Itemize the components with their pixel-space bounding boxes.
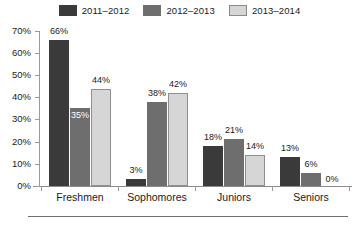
- y-tick-label-20: 20%: [12, 136, 31, 147]
- bar-wrap-freshmen-2011-2012: 66%: [49, 26, 69, 186]
- x-axis-label-freshmen: Freshmen: [47, 191, 113, 203]
- bar-sophomores-2011-2012[interactable]: [126, 179, 146, 186]
- bar-wrap-freshmen-2012-2013: 35%: [70, 26, 90, 186]
- y-tick-40: 40%: [0, 97, 40, 98]
- bar-seniors-2011-2012[interactable]: [280, 157, 300, 186]
- bar-value-seniors-2012-2013: 6%: [304, 160, 317, 169]
- legend-label-series-2: 2012–2013: [166, 5, 214, 16]
- bar-juniors-2011-2012[interactable]: [203, 146, 223, 186]
- y-tick-30: 30%: [0, 119, 40, 120]
- y-tick-60: 60%: [0, 53, 40, 54]
- y-tick-mark-30: [35, 119, 40, 120]
- y-tick-10: 10%: [0, 164, 40, 165]
- legend-entry-2013-2014: 2013–2014: [229, 5, 300, 16]
- bar-value-juniors-2013-2014: 14%: [246, 142, 264, 151]
- bar-value-sophomores-2011-2012: 3%: [129, 166, 142, 175]
- y-tick-label-10: 10%: [12, 158, 31, 169]
- y-tick-label-60: 60%: [12, 47, 31, 58]
- bar-value-seniors-2013-2014: 0%: [325, 175, 338, 184]
- bar-value-seniors-2011-2012: 13%: [281, 144, 299, 153]
- bar-value-sophomores-2013-2014: 42%: [169, 80, 187, 89]
- y-tick-mark-40: [35, 97, 40, 98]
- y-tick-20: 20%: [0, 142, 40, 143]
- bar-value-freshmen-2011-2012: 66%: [50, 27, 68, 36]
- bar-value-juniors-2012-2013: 21%: [225, 126, 243, 135]
- y-tick-mark-50: [35, 75, 40, 76]
- bar-value-freshmen-2012-2013: 35%: [71, 111, 89, 120]
- bar-sophomores-2012-2013[interactable]: [147, 102, 167, 186]
- x-tick-mark-0: [41, 186, 42, 191]
- x-axis-label-seniors: Seniors: [278, 191, 344, 203]
- x-tick-mark-2: [195, 186, 196, 191]
- legend-label-series-1: 2011–2012: [82, 5, 130, 16]
- legend-swatch-icon-series-2: [143, 5, 161, 16]
- bar-value-sophomores-2012-2013: 38%: [148, 89, 166, 98]
- x-tick-mark-4: [349, 186, 350, 191]
- x-axis-line: [33, 186, 352, 187]
- bar-group-juniors: 18% 21% 14%: [201, 26, 267, 186]
- y-tick-label-30: 30%: [12, 113, 31, 124]
- x-tick-mark-3: [272, 186, 273, 191]
- bar-juniors-2013-2014[interactable]: [245, 155, 265, 186]
- bar-chart-figure: 2011–2012 2012–2013 2013–2014 70% 60% 50…: [0, 0, 359, 229]
- bar-wrap-juniors-2013-2014: 14%: [245, 26, 265, 186]
- bar-group-seniors-bars: 13% 6% 0%: [278, 26, 344, 186]
- y-tick-70: 70%: [0, 31, 40, 32]
- y-tick-mark-10: [35, 164, 40, 165]
- bar-wrap-seniors-2013-2014: 0%: [322, 26, 342, 186]
- x-tick-mark-1: [118, 186, 119, 191]
- bar-freshmen-2011-2012[interactable]: [49, 40, 69, 186]
- bar-group-freshmen: 66% 35% 44%: [47, 26, 113, 186]
- bar-group-sophomores: 3% 38% 42%: [124, 26, 190, 186]
- footer-divider: [28, 216, 348, 217]
- bar-wrap-seniors-2011-2012: 13%: [280, 26, 300, 186]
- y-tick-mark-20: [35, 142, 40, 143]
- bar-wrap-seniors-2012-2013: 6%: [301, 26, 321, 186]
- y-tick-mark-60: [35, 53, 40, 54]
- y-tick-50: 50%: [0, 75, 40, 76]
- x-axis-label-sophomores: Sophomores: [124, 191, 190, 203]
- legend-entry-2012-2013: 2012–2013: [143, 5, 214, 16]
- legend-swatch-icon-series-1: [59, 5, 77, 16]
- bar-freshmen-2013-2014[interactable]: [91, 89, 111, 186]
- bar-seniors-2012-2013[interactable]: [301, 173, 321, 186]
- bar-group-juniors-bars: 18% 21% 14%: [201, 26, 267, 186]
- bar-juniors-2012-2013[interactable]: [224, 139, 244, 186]
- chart-legend: 2011–2012 2012–2013 2013–2014: [0, 2, 359, 18]
- bar-wrap-juniors-2011-2012: 18%: [203, 26, 223, 186]
- bar-group-freshmen-bars: 66% 35% 44%: [47, 26, 113, 186]
- y-tick-label-40: 40%: [12, 91, 31, 102]
- legend-label-series-3: 2013–2014: [252, 5, 300, 16]
- y-tick-mark-0: [35, 186, 40, 187]
- y-tick-mark-70: [35, 31, 40, 32]
- legend-entry-2011-2012: 2011–2012: [59, 5, 130, 16]
- bar-group-seniors: 13% 6% 0%: [278, 26, 344, 186]
- bar-wrap-sophomores-2013-2014: 42%: [168, 26, 188, 186]
- bar-group-sophomores-bars: 3% 38% 42%: [124, 26, 190, 186]
- bar-wrap-juniors-2012-2013: 21%: [224, 26, 244, 186]
- bar-sophomores-2013-2014[interactable]: [168, 93, 188, 186]
- x-axis-label-juniors: Juniors: [201, 191, 267, 203]
- bar-value-freshmen-2013-2014: 44%: [92, 76, 110, 85]
- y-tick-0: 0%: [0, 186, 40, 187]
- y-tick-label-0: 0%: [17, 180, 31, 191]
- bar-wrap-sophomores-2012-2013: 38%: [147, 26, 167, 186]
- y-tick-label-50: 50%: [12, 69, 31, 80]
- bar-wrap-sophomores-2011-2012: 3%: [126, 26, 146, 186]
- bar-wrap-freshmen-2013-2014: 44%: [91, 26, 111, 186]
- legend-swatch-icon-series-3: [229, 5, 247, 16]
- y-tick-label-70: 70%: [12, 25, 31, 36]
- bar-value-juniors-2011-2012: 18%: [204, 133, 222, 142]
